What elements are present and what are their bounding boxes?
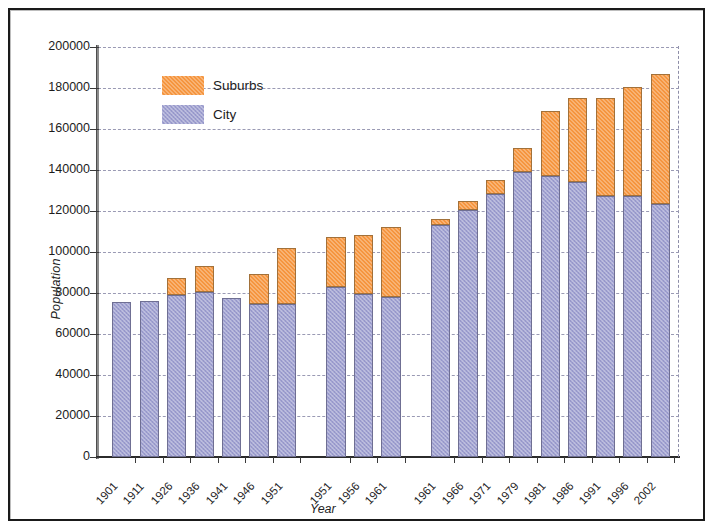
bar-1911-0[interactable] — [140, 301, 159, 457]
x-tick-mark — [300, 457, 301, 463]
bar-segment-city — [623, 196, 642, 457]
y-tick-label: 20000 — [18, 408, 90, 422]
bar-segment-city — [651, 204, 670, 457]
bar-2002-2[interactable] — [651, 74, 670, 457]
y-tick-label: 40000 — [18, 367, 90, 381]
x-tick-label: 1971 — [467, 480, 493, 507]
y-tick-mark — [90, 47, 99, 48]
x-tick-mark — [350, 457, 351, 463]
bar-segment-city — [541, 176, 560, 457]
x-tick-label: 1961 — [412, 480, 438, 507]
bar-segment-suburbs — [596, 98, 615, 195]
x-tick-label: 1956 — [335, 480, 361, 507]
gridline — [98, 47, 679, 48]
x-tick-mark — [377, 457, 378, 463]
bar-segment-city — [112, 302, 131, 457]
y-tick-mark — [90, 211, 99, 212]
bar-1946-0[interactable] — [249, 274, 268, 457]
bar-segment-suburbs — [651, 74, 670, 204]
legend-swatch-city — [162, 105, 204, 124]
bar-segment-city — [596, 196, 615, 457]
bar-1986-2[interactable] — [568, 98, 587, 457]
x-tick-mark — [190, 457, 191, 463]
bar-segment-city — [326, 287, 345, 457]
x-tick-mark — [273, 457, 274, 463]
bar-segment-city — [568, 182, 587, 457]
x-tick-label: 1951 — [258, 480, 284, 507]
x-tick-mark — [163, 457, 164, 463]
bar-1981-2[interactable] — [541, 111, 560, 457]
x-tick-mark — [405, 457, 406, 463]
x-tick-label: 1926 — [148, 480, 174, 507]
legend-label-city: City — [213, 107, 236, 122]
x-tick-mark — [537, 457, 538, 463]
bar-1966-2[interactable] — [458, 201, 477, 457]
bar-segment-suburbs — [541, 111, 560, 177]
bar-segment-city — [222, 298, 241, 457]
x-tick-mark — [509, 457, 510, 463]
x-tick-mark — [674, 457, 675, 463]
gridline — [98, 211, 679, 212]
x-tick-label: 1981 — [522, 480, 548, 507]
y-tick-mark — [90, 252, 99, 253]
x-tick-label: 1986 — [549, 480, 575, 507]
x-tick-label: 1946 — [231, 480, 257, 507]
bar-segment-suburbs — [249, 274, 268, 305]
bar-segment-suburbs — [458, 201, 477, 210]
bar-1941-0[interactable] — [222, 298, 241, 457]
bar-segment-suburbs — [513, 148, 532, 172]
x-tick-label: 1901 — [93, 480, 119, 507]
bar-segment-suburbs — [486, 180, 505, 193]
bar-segment-city — [167, 295, 186, 457]
x-tick-mark — [647, 457, 648, 463]
y-tick-label: 160000 — [18, 121, 90, 135]
legend-item-city[interactable]: City — [162, 105, 263, 124]
legend-swatch-suburbs — [162, 76, 204, 95]
bar-1936-0[interactable] — [195, 266, 214, 457]
y-tick-label: 200000 — [18, 39, 90, 53]
bar-1979-2[interactable] — [513, 148, 532, 457]
x-tick-label: 1979 — [494, 480, 520, 507]
bar-segment-city — [381, 297, 400, 457]
y-tick-mark — [90, 334, 99, 335]
bar-1926-0[interactable] — [167, 278, 186, 457]
bar-1901-0[interactable] — [112, 302, 131, 457]
bar-segment-suburbs — [277, 248, 296, 304]
x-tick-mark — [592, 457, 593, 463]
bar-1956-1[interactable] — [354, 235, 373, 457]
x-tick-mark — [564, 457, 565, 463]
x-tick-mark — [482, 457, 483, 463]
y-tick-mark — [90, 416, 99, 417]
y-tick-mark — [90, 457, 99, 458]
bar-1951-0[interactable] — [277, 248, 296, 457]
bar-1991-2[interactable] — [596, 98, 615, 457]
y-tick-mark — [90, 293, 99, 294]
bar-1961-1[interactable] — [381, 227, 400, 457]
bar-segment-city — [458, 210, 477, 457]
legend-item-suburbs[interactable]: Suburbs — [162, 76, 263, 95]
bar-1971-2[interactable] — [486, 180, 505, 457]
x-tick-label: 1991 — [577, 480, 603, 507]
plot-area: 2000001800001600001400001200001000008000… — [10, 10, 703, 519]
x-tick-label: 1966 — [439, 480, 465, 507]
bar-segment-suburbs — [568, 98, 587, 182]
bar-segment-city — [513, 172, 532, 457]
y-tick-label: 180000 — [18, 80, 90, 94]
bar-segment-city — [249, 304, 268, 457]
bar-1951-1[interactable] — [326, 237, 345, 457]
x-tick-label: 2002 — [632, 480, 658, 507]
y-axis-title: Population — [49, 229, 63, 349]
y-tick-mark — [90, 129, 99, 130]
x-tick-mark — [454, 457, 455, 463]
bar-1961-2[interactable] — [431, 219, 450, 457]
chart-frame: 2000001800001600001400001200001000008000… — [8, 8, 705, 521]
x-tick-mark — [135, 457, 136, 463]
x-tick-label: 1936 — [176, 480, 202, 507]
legend-label-suburbs: Suburbs — [213, 78, 263, 93]
bar-segment-suburbs — [623, 87, 642, 196]
x-tick-mark — [619, 457, 620, 463]
y-tick-label: 120000 — [18, 203, 90, 217]
bar-1996-2[interactable] — [623, 87, 642, 457]
bar-segment-city — [277, 304, 296, 457]
x-tick-label: 1911 — [121, 480, 147, 506]
